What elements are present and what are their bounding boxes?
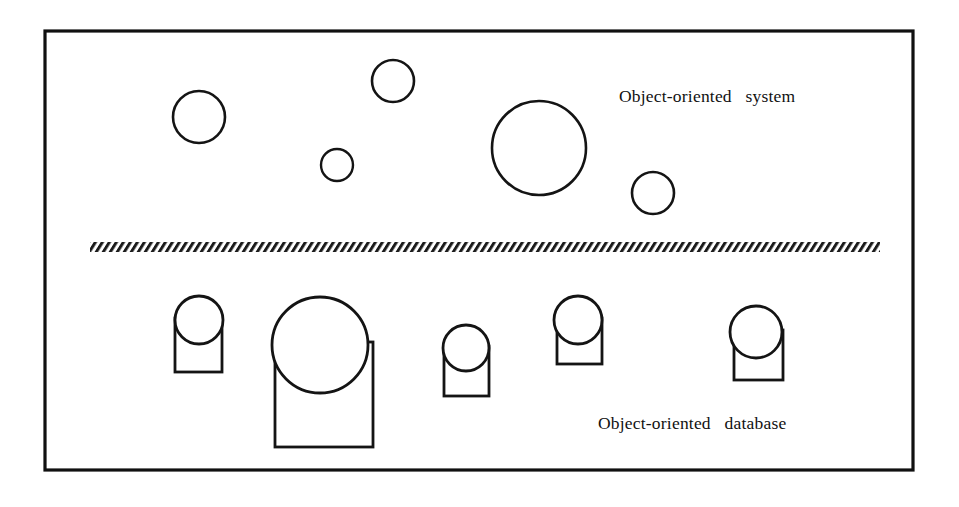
database-object-item	[175, 296, 223, 372]
system-object-circle	[632, 172, 674, 214]
label-object-oriented-system: Object-oriented system	[619, 86, 795, 107]
database-object-item	[554, 296, 602, 364]
system-object-circle	[492, 101, 586, 195]
database-object-circle	[175, 296, 223, 344]
object-oriented-system-group	[173, 60, 674, 214]
hatched-separator	[90, 242, 880, 252]
database-object-circle	[443, 325, 489, 371]
database-object-circle	[730, 306, 782, 358]
database-object-circle	[272, 297, 368, 393]
label-object-oriented-database: Object-oriented database	[598, 413, 786, 434]
figure-canvas: Object-oriented system Object-oriented d…	[0, 0, 959, 507]
database-object-item	[443, 325, 489, 396]
system-object-circle	[372, 60, 414, 102]
system-object-circle	[321, 149, 353, 181]
database-object-item	[272, 297, 373, 447]
system-object-circle	[173, 91, 225, 143]
database-object-item	[730, 306, 783, 380]
database-object-circle	[554, 296, 602, 344]
diagram-svg	[0, 0, 959, 507]
